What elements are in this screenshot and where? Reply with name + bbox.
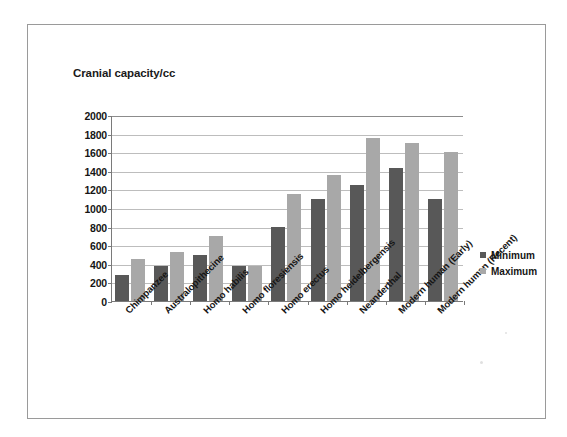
y-axis-tick-label: 200 [90,277,107,289]
bar-maximum [327,175,341,301]
chart-page: Cranial capacity/cc 20001800160014001200… [0,0,567,437]
bar-maximum [287,194,301,301]
y-axis-tick-label: 600 [90,240,107,252]
legend-swatch-maximum-icon [480,268,486,274]
y-axis-tick-mark [108,302,112,303]
x-axis-labels: ChimpanzeeAustralopithecineHomo habilisH… [111,304,511,424]
bar-group [112,116,151,301]
y-axis-tick-label: 2000 [84,110,107,122]
y-axis-tick-label: 400 [90,259,107,271]
bar-minimum [115,275,129,301]
chart-frame: Cranial capacity/cc 20001800160014001200… [27,24,546,419]
chart-title: Cranial capacity/cc [73,67,233,80]
legend-item-minimum: Minimum [480,247,537,263]
legend-swatch-minimum-icon [480,252,486,258]
chart-legend: Minimum Maximum [480,247,537,279]
legend-label-minimum: Minimum [491,250,535,261]
y-axis-tick-label: 1400 [84,166,107,178]
y-axis-tick-label: 1000 [84,203,107,215]
scan-speck [505,332,507,334]
bar-maximum [366,138,380,301]
legend-item-maximum: Maximum [480,263,537,279]
bar-maximum [444,152,458,301]
scan-speck [480,361,483,364]
y-axis-tick-label: 1200 [84,184,107,196]
bar-maximum [405,143,419,301]
legend-label-maximum: Maximum [491,266,537,277]
y-axis-tick-label: 1600 [84,147,107,159]
y-axis-tick-label: 800 [90,222,107,234]
y-axis-tick-label: 0 [101,296,107,308]
y-axis-tick-label: 1800 [84,129,107,141]
